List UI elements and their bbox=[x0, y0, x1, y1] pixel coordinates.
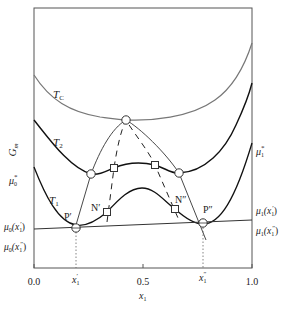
gibbs-energy-diagram: TC T2 T1 P′ P″ N′ N″ Gm μ0* μ0(x1′) μ0(x… bbox=[0, 0, 289, 309]
binodal-curve bbox=[76, 120, 206, 240]
label-T1: T1 bbox=[49, 194, 59, 208]
curve-Tc bbox=[34, 43, 252, 120]
P-prime-marker bbox=[72, 224, 80, 232]
label-P-prime: P′ bbox=[64, 211, 72, 222]
P-doubleprime-marker bbox=[199, 219, 207, 227]
binodal-marker-T2-right bbox=[175, 169, 183, 177]
label-N-prime: N′ bbox=[91, 202, 100, 213]
label-mu1-x1-doubleprime: μ1(x1″) bbox=[255, 224, 278, 237]
label-Tc: TC bbox=[53, 88, 64, 102]
label-N-doubleprime: N″ bbox=[175, 194, 186, 205]
label-T2: T2 bbox=[53, 136, 63, 150]
label-mu1-star: μ1* bbox=[255, 144, 265, 158]
plot-frame bbox=[34, 8, 252, 268]
x-axis-label: x1 bbox=[138, 290, 146, 302]
critical-point-marker bbox=[122, 116, 130, 124]
x-tick-label-05: 0.5 bbox=[137, 276, 150, 287]
label-mu1-x1-prime: μ1(x1′) bbox=[255, 204, 277, 217]
spinodal-marker-T2-right bbox=[152, 162, 159, 169]
label-mu0-star: μ0* bbox=[8, 173, 18, 187]
y-axis-label: Gm bbox=[6, 143, 20, 156]
x-tick-label-0: 0.0 bbox=[28, 276, 41, 287]
label-mu0-x1-prime: μ0(x1′) bbox=[3, 220, 25, 233]
label-x1-prime: x1′ bbox=[71, 272, 79, 286]
N-doubleprime-marker bbox=[172, 206, 179, 213]
binodal-marker-T2-left bbox=[87, 170, 95, 178]
label-P-doubleprime: P″ bbox=[203, 204, 213, 215]
spinodal-marker-T2-left bbox=[111, 165, 118, 172]
label-mu0-x1-doubleprime: μ0(x1″) bbox=[3, 240, 26, 253]
N-prime-marker bbox=[104, 209, 111, 216]
label-x1-doubleprime: x1″ bbox=[198, 270, 206, 284]
x-tick-label-1: 1.0 bbox=[246, 276, 259, 287]
